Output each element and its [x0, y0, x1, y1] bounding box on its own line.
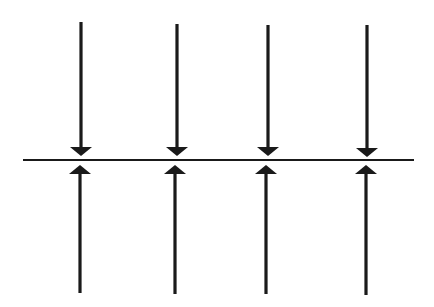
arrow-up-icon	[255, 165, 277, 294]
arrow-up-icon	[69, 165, 91, 293]
arrow-down-icon	[356, 25, 378, 157]
arrow-down-icon	[166, 24, 188, 156]
arrow-down-icon	[257, 25, 279, 156]
arrow-up-icon	[164, 165, 186, 294]
arrow-down-icon	[70, 22, 92, 156]
arrow-up-icon	[355, 165, 377, 295]
force-diagram	[0, 0, 434, 307]
